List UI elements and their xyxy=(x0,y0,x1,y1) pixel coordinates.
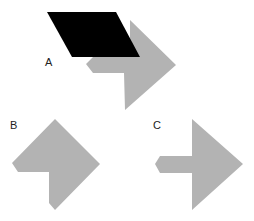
puzzle-figure: A B C xyxy=(0,0,254,221)
label-c: C xyxy=(153,119,161,131)
label-b: B xyxy=(10,119,17,131)
label-a: A xyxy=(45,56,53,68)
